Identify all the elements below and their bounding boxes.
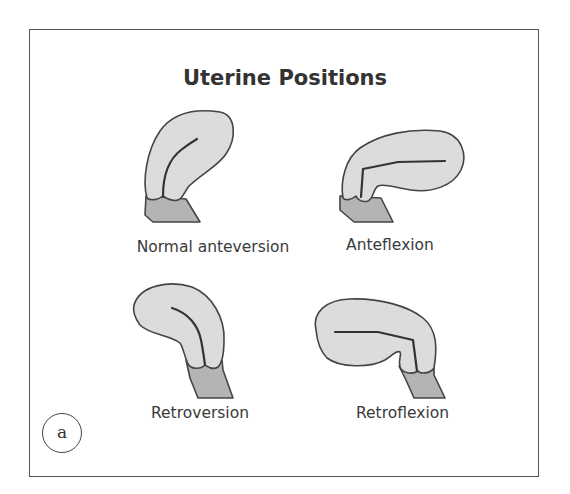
label-retroversion: Retroversion — [135, 404, 265, 422]
uterus-body — [145, 111, 233, 201]
retroflexion-illustration — [315, 299, 445, 398]
retroversion-illustration — [133, 284, 233, 398]
label-normal-anteversion: Normal anteversion — [130, 238, 296, 256]
label-retroflexion: Retroflexion — [340, 404, 465, 422]
anteflexion-illustration — [340, 130, 464, 222]
uterus-body — [315, 299, 435, 373]
uterus-body — [133, 284, 224, 369]
normal-anteversion-illustration — [145, 111, 233, 222]
label-anteflexion: Anteflexion — [335, 236, 445, 254]
panel-marker: a — [42, 413, 82, 453]
